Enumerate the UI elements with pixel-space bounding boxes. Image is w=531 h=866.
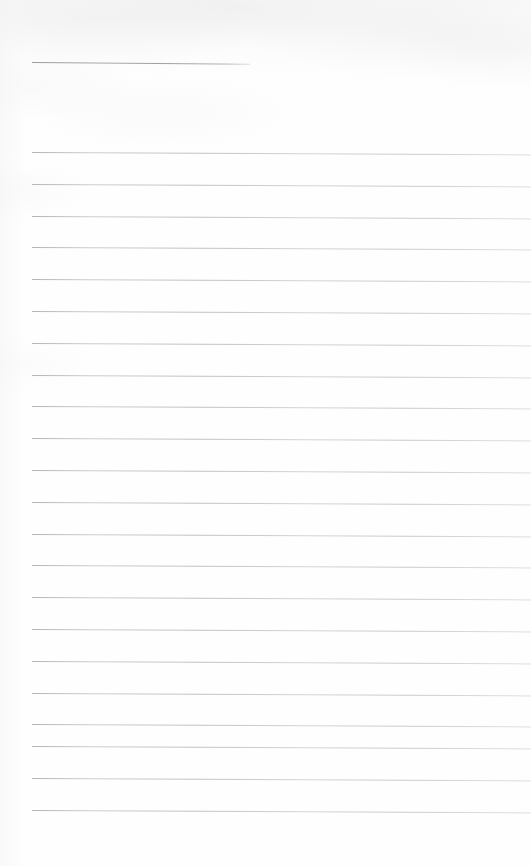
ruled-line [32, 438, 531, 441]
paper-texture-overlay [0, 0, 531, 866]
ruled-line [32, 247, 531, 250]
ruled-line [32, 311, 531, 314]
ruled-line [32, 184, 531, 187]
heading-rule [32, 62, 250, 65]
ruled-line [32, 629, 531, 632]
ruled-line [32, 152, 531, 155]
ruled-line [32, 810, 531, 813]
ruled-line [32, 216, 531, 219]
left-edge-shading [0, 0, 26, 866]
ruled-line [32, 746, 531, 749]
ruled-line [32, 343, 531, 346]
ruled-line [32, 693, 531, 696]
ruled-line [32, 502, 531, 505]
ruled-line [32, 724, 531, 727]
ruled-line [32, 470, 531, 473]
ruled-line [32, 565, 531, 568]
ruled-line [32, 778, 531, 781]
ruled-line [32, 375, 531, 378]
ruled-line [32, 597, 531, 600]
ruled-line [32, 406, 531, 409]
ruled-lines-group [0, 0, 531, 866]
ruled-line [32, 279, 531, 282]
ruled-line [32, 534, 531, 537]
ruled-line [32, 661, 531, 664]
notepad-page [0, 0, 531, 866]
